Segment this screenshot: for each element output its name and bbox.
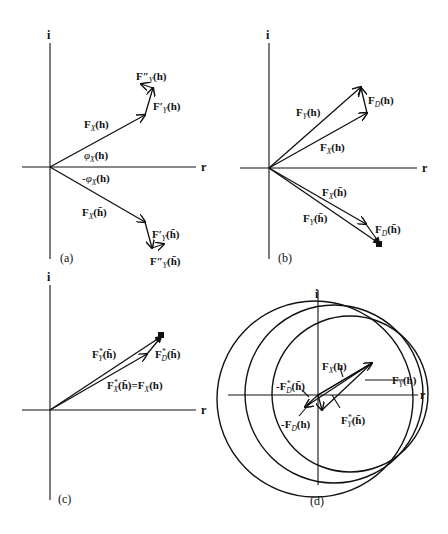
vector-fx-h [269,113,367,168]
label-fx-h: FX(h) [320,141,345,156]
label-neg-phi-h: -φX(h) [82,172,110,187]
label-fd-star-hbar: F*D(h̄) [155,347,181,363]
panel-caption-b: (b) [278,251,292,265]
label-fy1-h: F′Y(h) [153,100,181,115]
label-fy2-hbar: F″Y(h̄) [150,255,181,270]
label-fy-h: FY(h) [392,374,417,389]
panel-caption-a: (a) [60,251,73,265]
label-fy-star-hbar: F*Y(h̄) [341,413,365,429]
panel-b: i r FY(h) FD(h) FX(h) FX(h̄) FY(h̄) FD(h… [240,28,428,265]
real-axis-label: r [201,160,207,174]
vector-fy-h [269,87,361,168]
panel-caption-d: (d) [310,494,324,508]
label-fd-hbar: FD(h̄) [375,223,401,238]
label-phi-h: φX(h) [84,149,108,164]
vector-tip-marker [376,241,382,247]
label-fx-h: FX(h) [84,118,109,133]
real-axis-label: r [420,388,426,402]
vector-fy1-hbar [145,222,152,248]
real-axis-label: r [201,403,207,417]
label-neg-fd-h: -FD(h) [281,418,311,433]
label-fy2-h: F″Y(h) [136,70,167,85]
label-fy-hbar: FY(h̄) [303,212,328,227]
label-fx-hbar: FX(h̄) [82,206,107,221]
imag-axis-label: i [47,28,51,42]
label-fd-h: FD(h) [368,94,394,109]
leader-neg-fd-h [299,402,311,416]
vector-fd-h [361,88,367,113]
vector-fy1-h [145,88,153,115]
imag-axis-label: i [266,28,270,42]
label-fy-star-hbar: F*Y(h̄) [92,347,116,363]
panel-d: i r FX(h) FY(h) -F*D(h̄) -FD(h) F*Y(h̄) … [217,287,428,508]
label-fx-h: FX(h) [322,360,347,375]
panel-caption-c: (c) [58,492,71,506]
label-neg-fd-star-hbar: -F*D(h̄) [276,379,305,395]
label-fy-h: FY(h) [296,106,321,121]
vector-fy-hbar [269,168,380,244]
vector-tip-marker [158,332,164,338]
label-fx-star-equals-fx: F*X(h̄)=FX(h) [107,378,163,394]
vector-fy2-hbar [152,244,164,248]
panel-c: i r F*Y(h̄) F*D(h̄) F*X(h̄)=FX(h) (c) [22,270,207,506]
label-fy1-hbar: F′Y(h̄) [152,228,180,243]
real-axis-label: r [422,161,428,175]
vector-diagram-figure: i r F″Y(h) F′Y(h) FX(h) φX(h) -φX(h) FX(… [0,0,448,534]
label-fx-hbar: FX(h̄) [322,186,347,201]
panel-a: i r F″Y(h) F′Y(h) FX(h) φX(h) -φX(h) FX(… [22,28,207,270]
imag-axis-label: i [47,270,51,284]
